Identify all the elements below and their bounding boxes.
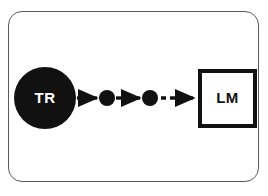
diagram-canvas <box>0 0 268 196</box>
node-tr-circle <box>14 67 76 129</box>
node-lm-square <box>200 71 255 126</box>
figure-root: TR LM <box>0 0 268 196</box>
node-dot1-circle <box>99 90 115 106</box>
node-dot2-circle <box>142 90 158 106</box>
